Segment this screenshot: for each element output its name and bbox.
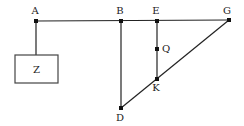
point-g-marker-icon — [227, 18, 231, 22]
point-q-label: Q — [162, 43, 170, 54]
point-e-marker-icon — [155, 19, 159, 23]
point-k-marker-icon — [155, 77, 159, 81]
point-q-marker-icon — [155, 47, 159, 51]
box-z-label: Z — [33, 64, 40, 75]
box-z: Z — [15, 55, 58, 83]
points — [34, 18, 231, 110]
segment-g-d — [121, 20, 229, 108]
point-k-label: K — [152, 82, 160, 93]
point-labels: ABEGQKD — [30, 5, 231, 123]
geometry-diagram: Z ABEGQKD — [0, 0, 244, 126]
point-e-label: E — [152, 5, 159, 16]
point-b-marker-icon — [119, 19, 123, 23]
point-d-label: D — [116, 112, 124, 123]
segments — [36, 20, 229, 108]
point-a-label: A — [30, 5, 39, 16]
point-g-label: G — [223, 5, 231, 16]
point-a-marker-icon — [34, 19, 38, 23]
segment-a-g — [36, 20, 229, 21]
point-b-label: B — [116, 5, 123, 16]
point-d-marker-icon — [119, 106, 123, 110]
